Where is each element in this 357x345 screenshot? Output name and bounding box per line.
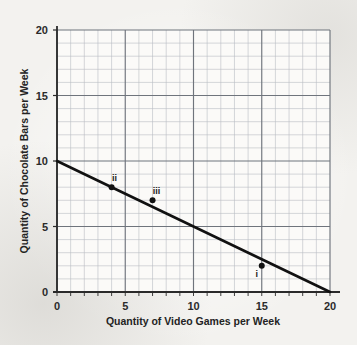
- data-point-marker-iii: [150, 197, 156, 203]
- y-axis-tick-labels: 05101520: [36, 24, 48, 298]
- x-axis-tick-marks: [57, 292, 330, 296]
- y-axis-tick-label: 15: [36, 90, 48, 102]
- chart-figure: 05101520 05101520 iiiiii Quantity of Vid…: [0, 0, 357, 345]
- data-point-label-iii: iii: [153, 186, 161, 196]
- data-point-marker-i: [259, 263, 265, 269]
- data-point-marker-ii: [109, 184, 115, 190]
- data-point-label-i: i: [255, 269, 258, 279]
- y-axis-tick-label: 10: [36, 155, 48, 167]
- x-axis-tick-label: 20: [324, 300, 336, 312]
- data-point-label-ii: ii: [112, 173, 117, 183]
- y-axis-tick-label: 20: [36, 24, 48, 36]
- x-axis-tick-label: 0: [54, 300, 60, 312]
- y-axis-title: Quantity of Chocolate Bars per Week: [18, 68, 30, 253]
- x-axis-tick-labels: 05101520: [54, 300, 336, 312]
- y-axis-tick-label: 5: [42, 221, 48, 233]
- chart-svg: 05101520 05101520 iiiiii Quantity of Vid…: [0, 0, 357, 345]
- x-axis-tick-label: 15: [256, 300, 268, 312]
- x-axis-title: Quantity of Video Games per Week: [106, 315, 280, 327]
- x-axis-tick-label: 10: [187, 300, 199, 312]
- x-axis-tick-label: 5: [122, 300, 128, 312]
- y-axis-tick-label: 0: [42, 286, 48, 298]
